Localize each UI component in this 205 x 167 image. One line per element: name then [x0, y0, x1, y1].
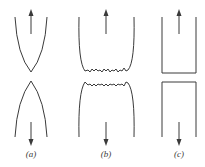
arrow-down-icon: [29, 122, 34, 146]
arrow-up-icon: [104, 9, 109, 34]
arrow-down-icon: [177, 122, 182, 146]
panel-b: (b): [79, 9, 134, 159]
panel-a-upper-right-curve: [31, 17, 47, 72]
panel-c-label: (c): [174, 149, 184, 159]
panel-a-lower-left-curve: [15, 81, 31, 137]
panel-a-lower-right-curve: [31, 81, 47, 137]
fracture-diagram: (a) (b) (c): [0, 0, 205, 167]
arrow-up-icon: [29, 9, 34, 34]
panel-c: (c): [162, 9, 196, 159]
panel-b-label: (b): [101, 149, 112, 159]
panel-a-label: (a): [26, 149, 37, 159]
panel-a-upper-left-curve: [15, 17, 31, 72]
arrow-up-icon: [177, 9, 182, 34]
arrow-down-icon: [104, 122, 109, 146]
panel-a: (a): [15, 9, 47, 159]
